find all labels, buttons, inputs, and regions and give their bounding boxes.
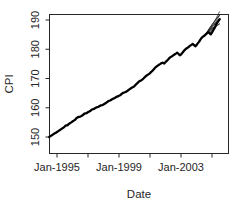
chart-container: 150160170180190 Jan-1995Jan-1999Jan-2003… [0,0,242,207]
y-tick-label: 160 [29,99,41,117]
x-axis-title: Date [127,188,151,200]
x-tick-label: Jan-1995 [34,161,80,173]
y-axis-title: CPI [3,74,15,93]
x-tick-label: Jan-2003 [158,161,204,173]
y-tick-label: 190 [29,11,41,29]
x-tick-label: Jan-1999 [96,161,142,173]
y-tick-label: 150 [29,128,41,146]
y-tick-label: 180 [29,40,41,58]
y-tick-label: 170 [29,69,41,87]
x-axis-tick-labels: Jan-1995Jan-1999Jan-2003 [34,161,204,173]
cpi-time-series-chart: 150160170180190 Jan-1995Jan-1999Jan-2003… [0,0,242,207]
